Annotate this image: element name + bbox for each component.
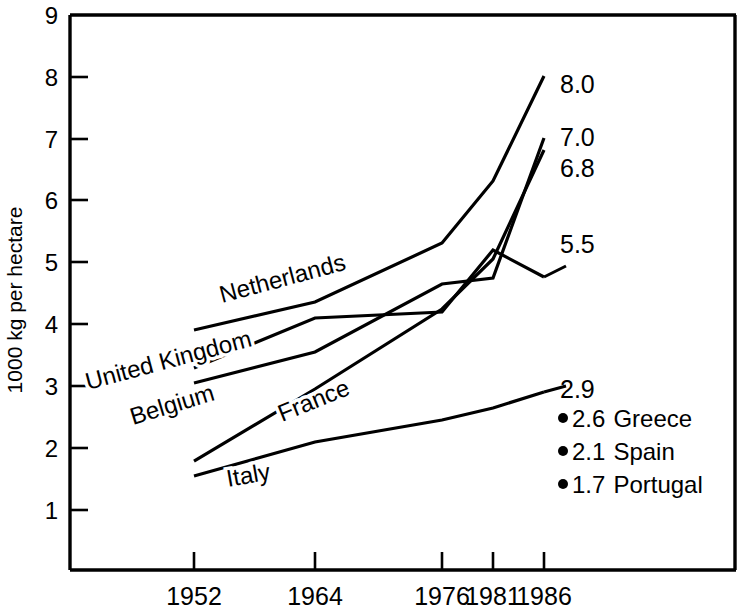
end-value-italy: 2.9 [560,375,595,403]
series-label-belgium-group: Belgium [127,379,218,430]
y-tick-label-8: 8 [45,64,58,91]
series-label-belgium: Belgium [127,379,218,430]
x-tick-label-1976: 1976 [414,582,470,610]
y-tick-label-5: 5 [45,249,58,276]
end-value-labels: 8.0 7.0 6.8 5.5 2.9 [560,70,595,403]
x-tick-marks [194,552,544,570]
y-tick-labels: 9 8 7 6 5 4 3 2 1 [45,2,58,524]
x-tick-label-1952: 1952 [166,582,222,610]
leader-belgium [544,266,566,277]
series-label-united-kingdom-group: United Kingdom [82,325,254,395]
x-tick-label-1981: 1981 [465,582,521,610]
bullet-spain-icon [558,446,568,456]
end-value-united-kingdom: 7.0 [560,123,595,151]
y-tick-label-3: 3 [45,373,58,400]
end-value-leaders [544,266,566,392]
bullet-portugal-icon [558,479,568,489]
end-value-netherlands: 8.0 [560,70,595,98]
series-label-italy: Italy [224,458,272,492]
series-label-netherlands-group: Netherlands [216,248,348,308]
x-tick-label-1986: 1986 [516,582,572,610]
chart-canvas: 9 8 7 6 5 4 3 2 1 1000 kg per hectare 19… [0,0,738,615]
annotation-portugal-name: Portugal [613,471,702,498]
y-axis-title: 1000 kg per hectare [3,207,26,394]
series-inline-labels: Netherlands United Kingdom Belgium Franc… [82,248,353,492]
end-value-france: 6.8 [560,154,595,182]
annotation-spain-name: Spain [613,438,674,465]
y-tick-marks [70,77,88,510]
y-tick-label-6: 6 [45,187,58,214]
series-label-netherlands: Netherlands [216,248,348,308]
y-tick-label-4: 4 [45,311,58,338]
line-chart: 9 8 7 6 5 4 3 2 1 1000 kg per hectare 19… [0,0,738,615]
series-label-france: France [274,374,353,427]
annotation-spain: 2.1Spain [572,438,675,465]
x-tick-labels: 1952 1964 1976 1981 1986 [166,582,572,610]
series-label-italy-group: Italy [224,458,272,492]
end-value-belgium: 5.5 [560,230,595,258]
annotation-portugal-value: 1.7 [572,471,605,498]
country-annotations: 2.6Greece 2.1Spain 1.7Portugal [558,405,703,498]
series-line-france [194,150,544,461]
series-label-united-kingdom: United Kingdom [82,325,254,395]
annotation-spain-value: 2.1 [572,438,605,465]
bullet-greece-icon [558,413,568,423]
x-tick-label-1964: 1964 [287,582,343,610]
annotation-greece-value: 2.6 [572,405,605,432]
y-tick-label-7: 7 [45,126,58,153]
y-tick-label-9: 9 [45,2,58,29]
series-label-france-group: France [274,374,353,427]
annotation-greece-name: Greece [613,405,692,432]
annotation-portugal: 1.7Portugal [572,471,703,498]
annotation-greece: 2.6Greece [572,405,692,432]
y-tick-label-2: 2 [45,435,58,462]
y-tick-label-1: 1 [45,497,58,524]
